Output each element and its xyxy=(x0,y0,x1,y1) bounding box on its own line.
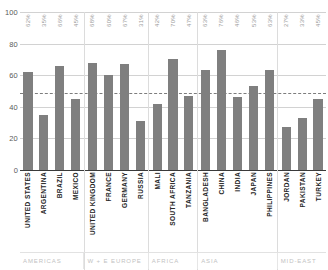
bar[interactable] xyxy=(120,64,129,170)
bar-slot xyxy=(36,12,52,170)
y-tick-label: 60 xyxy=(9,71,18,80)
bar[interactable] xyxy=(168,59,177,170)
x-tick-label: BANGLADESH xyxy=(202,172,209,222)
x-tick-label: INDIA xyxy=(234,172,241,192)
x-tick-label: MALI xyxy=(154,172,161,190)
panel-category-labels: MALISOUTH AFRICATANZANIA xyxy=(148,172,197,248)
bar[interactable] xyxy=(201,70,210,170)
panel-category-labels: UNITED STATESARGENTINABRAZILMEXICO xyxy=(20,172,84,248)
bar-slot xyxy=(246,12,262,170)
bar[interactable] xyxy=(298,118,307,170)
x-tick-label-cell: UNITED STATES xyxy=(20,172,36,248)
x-tick-label-cell: MEXICO xyxy=(68,172,84,248)
bar-slot xyxy=(85,12,101,170)
region-label: AFRICA xyxy=(148,253,197,269)
x-tick-label: UNITED STATES xyxy=(24,172,31,228)
x-tick-label-cell: FRANCE xyxy=(100,172,116,248)
panel-category-labels: JORDANPAKISTANTURKEY xyxy=(277,172,326,248)
x-tick-label: PHILIPPINES xyxy=(266,172,273,217)
x-tick-label: SOUTH AFRICA xyxy=(169,172,176,226)
x-tick-label-cell: GERMANY xyxy=(116,172,132,248)
bar-slot xyxy=(181,12,197,170)
y-axis: 020406080100 xyxy=(0,0,20,270)
bar-slot xyxy=(52,12,68,170)
x-tick-label: UNITED KINGDOM xyxy=(89,172,96,235)
bar-slot xyxy=(294,12,310,170)
bar[interactable] xyxy=(55,66,64,170)
bar-slot xyxy=(165,12,181,170)
x-tick-label-cell: CHINA xyxy=(214,172,230,248)
region-label: ASIA xyxy=(197,253,277,269)
y-tick-label: 40 xyxy=(9,102,18,111)
panel-bars xyxy=(198,12,277,170)
bar[interactable] xyxy=(104,75,113,170)
bar[interactable] xyxy=(71,99,80,170)
x-tick-label-cell: BRAZIL xyxy=(52,172,68,248)
bar-slot xyxy=(68,12,84,170)
panel-category-labels: UNITED KINGDOMFRANCEGERMANYRUSSIA xyxy=(84,172,149,248)
bar[interactable] xyxy=(233,97,242,170)
x-tick-label: BRAZIL xyxy=(56,172,63,198)
x-tick-label: CHINA xyxy=(218,172,225,195)
bar[interactable] xyxy=(282,127,291,170)
region-label: AMERICAS xyxy=(20,253,83,269)
bar-slot xyxy=(278,12,294,170)
bar[interactable] xyxy=(184,96,193,170)
x-tick-label-cell: RUSSIA xyxy=(132,172,148,248)
x-tick-label-cell: BANGLADESH xyxy=(198,172,214,248)
bar[interactable] xyxy=(23,72,32,170)
x-tick-label: PAKISTAN xyxy=(299,172,306,207)
x-tick-label-cell: SOUTH AFRICA xyxy=(165,172,181,248)
x-tick-label-cell: PHILIPPINES xyxy=(261,172,277,248)
bar-slot xyxy=(132,12,148,170)
x-tick-label: RUSSIA xyxy=(137,172,144,199)
bar-slot xyxy=(310,12,326,170)
x-tick-label-cell: INDIA xyxy=(230,172,246,248)
bar[interactable] xyxy=(136,121,145,170)
bar[interactable] xyxy=(88,63,97,170)
x-tick-label: GERMANY xyxy=(121,172,128,208)
bar-slot xyxy=(261,12,277,170)
x-tick-label: FRANCE xyxy=(105,172,112,201)
region-label-row: AMERICASW + E EUROPEAFRICAASIAMID-EAST xyxy=(20,252,326,269)
bar[interactable] xyxy=(313,99,322,170)
bar-slot xyxy=(20,12,36,170)
x-tick-label: TANZANIA xyxy=(185,172,192,208)
x-tick-label-cell: MALI xyxy=(149,172,165,248)
x-tick-label: MEXICO xyxy=(72,172,79,200)
y-tick-label: 80 xyxy=(9,39,18,48)
panel-bars xyxy=(85,12,149,170)
bar-slot xyxy=(230,12,246,170)
x-tick-label-cell: PAKISTAN xyxy=(294,172,310,248)
x-tick-label-cell: ARGENTINA xyxy=(36,172,52,248)
bar-slot xyxy=(149,12,165,170)
y-tick-label: 20 xyxy=(9,134,18,143)
bar-slot xyxy=(198,12,214,170)
x-tick-label-cell: UNITED KINGDOM xyxy=(85,172,101,248)
x-tick-label: TURKEY xyxy=(315,172,322,201)
bar[interactable] xyxy=(39,115,48,170)
panel-bars xyxy=(278,12,326,170)
x-tick-label: JAPAN xyxy=(250,172,257,196)
bar[interactable] xyxy=(153,104,162,170)
panel-category-labels: BANGLADESHCHINAINDIAJAPANPHILIPPINES xyxy=(197,172,277,248)
y-tick-label: 100 xyxy=(5,8,18,17)
panel-bars xyxy=(149,12,197,170)
bar[interactable] xyxy=(265,70,274,170)
y-tick-label: 0 xyxy=(14,166,18,175)
region-label: W + E EUROPE xyxy=(83,253,147,269)
x-tick-label-cell: JAPAN xyxy=(246,172,262,248)
region-label: MID-EAST xyxy=(277,253,326,269)
category-label-row: UNITED STATESARGENTINABRAZILMEXICOUNITED… xyxy=(20,172,326,248)
bar-chart: 020406080100 62%35%66%45%68%60%67%31%42%… xyxy=(0,0,328,270)
bar-slot xyxy=(214,12,230,170)
bar-slot xyxy=(116,12,132,170)
x-tick-label-cell: JORDAN xyxy=(278,172,294,248)
bar-slot xyxy=(100,12,116,170)
x-tick-label-cell: TANZANIA xyxy=(181,172,197,248)
x-tick-label: JORDAN xyxy=(283,172,290,202)
x-tick-label-cell: TURKEY xyxy=(310,172,326,248)
bar[interactable] xyxy=(249,86,258,170)
panel-bars xyxy=(20,12,84,170)
bar[interactable] xyxy=(217,50,226,170)
